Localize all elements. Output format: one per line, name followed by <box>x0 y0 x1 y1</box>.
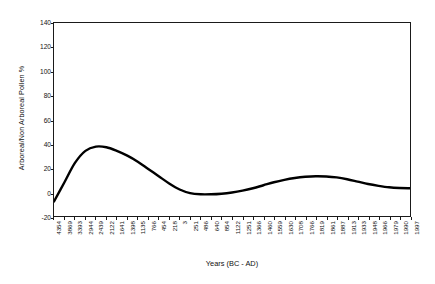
x-tick-mark <box>158 217 159 220</box>
x-tick-label: 1933 <box>361 221 367 235</box>
x-tick-label: 1708 <box>298 221 304 235</box>
x-tick-mark <box>264 217 265 220</box>
x-tick-mark <box>179 217 180 220</box>
x-tick-mark <box>285 217 286 220</box>
x-tick-mark <box>306 217 307 220</box>
x-tick-mark <box>127 217 128 220</box>
y-tick-mark <box>51 47 54 48</box>
x-tick-label: 454 <box>161 221 167 231</box>
x-tick-label: 766 <box>151 221 157 231</box>
x-tick-label: 640 <box>214 221 220 231</box>
y-tick-label: 20 <box>21 166 51 173</box>
x-tick-label: 251 <box>193 221 199 231</box>
x-tick-label: 486 <box>204 221 210 231</box>
x-tick-mark <box>348 217 349 220</box>
x-tick-label: 1251 <box>246 221 252 235</box>
x-tick-label: 1913 <box>351 221 357 235</box>
x-tick-mark <box>400 217 401 220</box>
x-tick-mark <box>379 217 380 220</box>
x-tick-mark <box>106 217 107 220</box>
x-tick-mark <box>116 217 117 220</box>
x-tick-mark <box>295 217 296 220</box>
x-tick-mark <box>74 217 75 220</box>
x-tick-label: 1948 <box>372 221 378 235</box>
x-tick-label: 1559 <box>277 221 283 235</box>
x-tick-label: 4354 <box>56 221 62 235</box>
x-tick-label: 1990 <box>404 221 410 235</box>
y-tick-label: -20 <box>21 215 51 222</box>
x-tick-mark <box>253 217 254 220</box>
x-tick-label: 1641 <box>119 221 125 235</box>
x-tick-label: 2122 <box>109 221 115 235</box>
x-tick-label: 1887 <box>340 221 346 235</box>
y-tick-mark <box>51 145 54 146</box>
x-tick-label: 1460 <box>267 221 273 235</box>
x-tick-label: 2944 <box>88 221 94 235</box>
x-tick-label: 2439 <box>98 221 104 235</box>
y-tick-mark <box>51 194 54 195</box>
x-tick-mark <box>53 217 54 220</box>
x-tick-mark <box>232 217 233 220</box>
x-tick-mark <box>274 217 275 220</box>
x-tick-label: 3 <box>182 221 188 224</box>
x-tick-mark <box>337 217 338 220</box>
y-tick-mark <box>51 169 54 170</box>
x-tick-label: 1630 <box>288 221 294 235</box>
x-tick-label: 1966 <box>383 221 389 235</box>
x-tick-label: 1997 <box>414 221 420 235</box>
x-tick-mark <box>95 217 96 220</box>
pollen-curve-path <box>54 146 410 201</box>
x-tick-mark <box>137 217 138 220</box>
y-tick-mark <box>51 23 54 24</box>
x-tick-label: 3869 <box>67 221 73 235</box>
y-tick-mark <box>51 72 54 73</box>
x-tick-label: 854 <box>225 221 231 231</box>
x-tick-label: 1122 <box>235 221 241 234</box>
x-tick-label: 1766 <box>309 221 315 235</box>
pollen-curve <box>54 23 410 216</box>
x-tick-label: 1398 <box>130 221 136 235</box>
x-tick-mark <box>148 217 149 220</box>
y-tick-label: 40 <box>21 142 51 149</box>
x-tick-label: 1861 <box>330 221 336 235</box>
x-tick-mark <box>327 217 328 220</box>
y-tick-label: 80 <box>21 93 51 100</box>
x-tick-mark <box>411 217 412 220</box>
y-tick-label: 0 <box>21 190 51 197</box>
x-tick-mark <box>85 217 86 220</box>
y-tick-mark <box>51 121 54 122</box>
x-tick-mark <box>211 217 212 220</box>
x-tick-label: 1819 <box>319 221 325 235</box>
x-tick-mark <box>190 217 191 220</box>
plot-area: -20020406080100120140 <box>53 22 411 217</box>
x-tick-label: 218 <box>172 221 178 231</box>
x-tick-mark <box>221 217 222 220</box>
y-tick-label: 100 <box>21 68 51 75</box>
x-axis-ticks: 4354386933932944243921221641139811357664… <box>53 217 411 253</box>
x-tick-label: 1366 <box>256 221 262 235</box>
x-tick-label: 1135 <box>140 221 146 234</box>
y-tick-label: 60 <box>21 117 51 124</box>
x-axis-title: Years (BC - AD) <box>53 259 411 268</box>
x-tick-mark <box>169 217 170 220</box>
x-tick-label: 3393 <box>77 221 83 235</box>
x-tick-label: 1979 <box>393 221 399 235</box>
y-tick-label: 120 <box>21 44 51 51</box>
x-tick-mark <box>369 217 370 220</box>
x-tick-mark <box>390 217 391 220</box>
x-tick-mark <box>358 217 359 220</box>
x-tick-mark <box>243 217 244 220</box>
x-tick-mark <box>200 217 201 220</box>
y-tick-label: 140 <box>21 20 51 27</box>
x-tick-mark <box>64 217 65 220</box>
chart-figure: Arboreal/Non Arboreal Pollen % -20020406… <box>0 0 435 284</box>
y-tick-mark <box>51 96 54 97</box>
x-tick-mark <box>316 217 317 220</box>
